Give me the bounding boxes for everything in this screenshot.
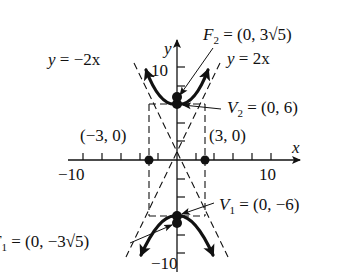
x-tick-label-10: 10 (259, 165, 276, 184)
point-neg3-0-dot (145, 156, 154, 165)
asymptote-pos-label: y = 2x (225, 49, 270, 68)
point-3-0-dot (201, 156, 210, 165)
leader-f1 (130, 225, 172, 243)
x-axis-label: x (291, 138, 300, 157)
point-label-3-0: (3, 0) (209, 126, 246, 145)
x-tick-label-neg10: −10 (58, 165, 85, 184)
vertex-v2-label: V2 = (0, 6) (227, 98, 298, 119)
asymptote-neg-label: y = −2x (46, 50, 101, 69)
axes (68, 40, 300, 272)
focus-f1-label: F1 = (0, −3√5) (0, 232, 89, 253)
focus-f1-dot (172, 218, 182, 228)
y-tick-label-neg10: −10 (151, 254, 178, 273)
hyperbola-diagram: y x 10 −10 −10 10 (−3, 0) (3, 0) y = −2x… (0, 0, 340, 273)
leader-v2 (183, 105, 221, 109)
vertex-v1-label: V1 = (0, −6) (219, 195, 299, 216)
y-tick-label-10: 10 (151, 61, 168, 80)
y-axis-label: y (162, 39, 172, 58)
point-label-neg3-0: (−3, 0) (80, 126, 126, 145)
leader-v1 (182, 203, 214, 214)
focus-f2-label: F2 = (0, 3√5) (202, 25, 292, 46)
